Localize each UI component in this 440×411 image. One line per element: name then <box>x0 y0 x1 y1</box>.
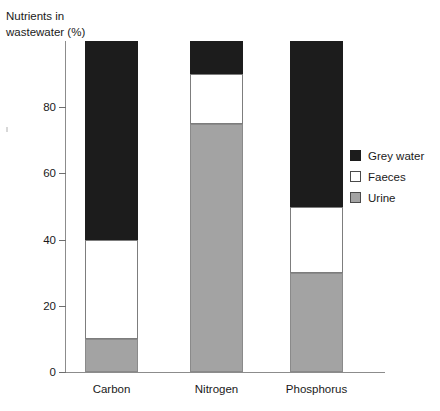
segment-urine <box>85 339 138 372</box>
segment-faeces <box>190 74 243 124</box>
tick-mark <box>59 372 66 373</box>
segment-faeces <box>85 240 138 339</box>
legend-swatch-icon <box>350 192 361 203</box>
segment-grey-water <box>290 41 343 207</box>
tick-mark <box>59 107 66 108</box>
segment-urine <box>190 124 243 372</box>
legend-swatch-icon <box>350 150 361 161</box>
tick-label: 40 <box>43 234 56 246</box>
bar-carbon <box>85 41 138 372</box>
legend-label: Urine <box>368 192 395 204</box>
tick-mark <box>59 240 66 241</box>
legend-item-faeces[interactable]: Faeces <box>350 166 438 187</box>
tick-label: 20 <box>43 300 56 312</box>
bar-nitrogen <box>190 41 243 372</box>
tick-mark <box>59 306 66 307</box>
legend: Grey waterFaecesUrine <box>350 145 438 208</box>
legend-label: Faeces <box>368 171 406 183</box>
segment-grey-water <box>85 41 138 240</box>
x-axis-line <box>65 372 385 373</box>
y-axis-line <box>65 41 66 372</box>
category-label-phosphorus: Phosphorus <box>257 383 377 395</box>
chart-figure: Nutrients in wastewater (%) 806040200 Ca… <box>0 0 440 411</box>
bar-phosphorus <box>290 41 343 372</box>
segment-faeces <box>290 207 343 273</box>
legend-item-grey-water[interactable]: Grey water <box>350 145 438 166</box>
category-label-carbon: Carbon <box>52 383 172 395</box>
tick-label: 80 <box>43 101 56 113</box>
y-axis-title: Nutrients in wastewater (%) <box>6 8 156 40</box>
segment-urine <box>290 273 343 372</box>
scan-artifact <box>6 127 8 132</box>
legend-item-urine[interactable]: Urine <box>350 187 438 208</box>
tick-label: 60 <box>43 167 56 179</box>
tick-label: 0 <box>50 366 56 378</box>
segment-grey-water <box>190 41 243 74</box>
legend-label: Grey water <box>368 150 424 162</box>
tick-mark <box>59 173 66 174</box>
plot-area: 806040200 CarbonNitrogenPhosphorus <box>65 41 385 372</box>
legend-swatch-icon <box>350 171 361 182</box>
